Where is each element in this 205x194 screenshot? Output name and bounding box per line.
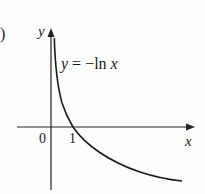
y-axis-label: y [38, 24, 45, 39]
x-axis-arrow-icon [186, 124, 195, 131]
x-axis-label: x [185, 134, 192, 149]
origin-tick-label: 0 [39, 132, 46, 146]
function-label: y = −ln x [61, 56, 118, 72]
chart-canvas [0, 0, 205, 194]
function-label-eq: = −ln [68, 55, 111, 72]
x-tick-label-1: 1 [69, 132, 76, 146]
y-axis-arrow-icon [48, 28, 55, 37]
function-label-x: x [111, 55, 118, 72]
panel-label-fragment: ) [0, 26, 5, 42]
